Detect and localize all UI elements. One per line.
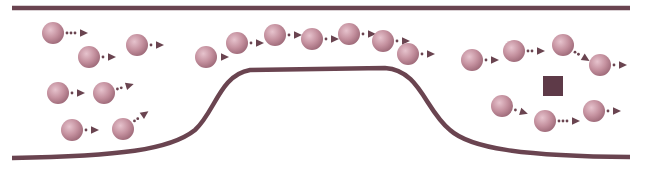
- particle-right: [534, 110, 580, 132]
- motion-arrow-icon: [85, 126, 99, 134]
- particle-middle: [301, 28, 339, 50]
- motion-arrow-icon: [71, 89, 85, 97]
- motion-arrow-icon: [150, 41, 164, 49]
- particle-sphere: [503, 40, 525, 62]
- motion-arrow-icon: [485, 56, 499, 64]
- motion-arrow-icon: [288, 31, 302, 39]
- particle-middle: [264, 24, 302, 46]
- motion-arrow-icon: [527, 47, 545, 55]
- particle-sphere: [589, 54, 611, 76]
- obstacle-square: [543, 76, 563, 96]
- particle-sphere: [226, 32, 248, 54]
- particle-sphere: [397, 43, 419, 65]
- particle-sphere: [78, 46, 100, 68]
- motion-arrow-icon: [613, 61, 627, 69]
- particle-right: [503, 40, 545, 62]
- particle-sphere: [126, 34, 148, 56]
- particle-middle: [226, 32, 264, 54]
- particle-sphere: [534, 110, 556, 132]
- particle-middle: [195, 46, 229, 68]
- particle-sphere: [583, 100, 605, 122]
- motion-arrow-icon: [133, 111, 148, 122]
- particle-right: [589, 54, 627, 76]
- particle-sphere: [42, 22, 64, 44]
- particle-left: [78, 46, 116, 68]
- particle-left: [47, 82, 85, 104]
- particle-left: [61, 119, 99, 141]
- motion-arrow-icon: [514, 108, 528, 115]
- particle-sphere: [301, 28, 323, 50]
- motion-arrow-icon: [221, 53, 229, 61]
- particle-sphere: [112, 118, 134, 140]
- motion-arrow-icon: [607, 107, 621, 115]
- particle-right: [491, 95, 528, 117]
- motion-arrow-icon: [325, 35, 339, 43]
- particle-sphere: [61, 119, 83, 141]
- motion-arrow-icon: [116, 83, 134, 91]
- particles-layer: [42, 22, 627, 141]
- motion-arrow-icon: [66, 29, 88, 37]
- motion-arrow-icon: [558, 117, 580, 125]
- particle-sphere: [264, 24, 286, 46]
- particle-right: [461, 49, 499, 71]
- motion-arrow-icon: [250, 39, 264, 47]
- particle-left: [126, 34, 164, 56]
- particle-sphere: [461, 49, 483, 71]
- particle-sphere: [47, 82, 69, 104]
- motion-arrow-icon: [421, 50, 435, 58]
- particle-right: [552, 34, 590, 61]
- particle-sphere: [195, 46, 217, 68]
- particle-sphere: [338, 23, 360, 45]
- particle-middle: [397, 43, 435, 65]
- particle-sphere: [372, 30, 394, 52]
- channel-bottom-wall-with-bump: [12, 68, 630, 158]
- particle-sphere: [93, 82, 115, 104]
- particle-right: [583, 100, 621, 122]
- particle-left: [42, 22, 88, 44]
- flow-diagram-canvas: [0, 0, 648, 171]
- particle-sphere: [491, 95, 513, 117]
- flow-diagram: [0, 0, 648, 171]
- motion-arrow-icon: [574, 51, 590, 61]
- particle-left: [93, 82, 134, 104]
- motion-arrow-icon: [102, 53, 116, 61]
- particle-sphere: [552, 34, 574, 56]
- particle-middle: [338, 23, 376, 45]
- particle-left: [112, 111, 148, 140]
